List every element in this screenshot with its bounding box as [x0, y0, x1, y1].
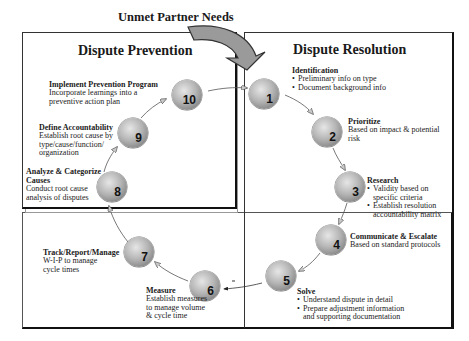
step-7-label: Track/Report/Manage W-I-P to manage cycl…	[43, 248, 123, 274]
step-8-label: Analyze & Categorize Causes Conduct root…	[26, 167, 102, 202]
step-2-label: Prioritize Based on impact & potential r…	[348, 117, 443, 143]
step-1-label: Identification Preliminary info on type …	[292, 66, 442, 92]
step-9-label: Define Accountability Establish root cau…	[39, 123, 117, 158]
step-10-label: Implement Prevention Program Incorporate…	[49, 80, 159, 106]
step-1-ball: 1	[249, 79, 279, 109]
step-6-label: Measure Establish measures to manage vol…	[146, 286, 208, 321]
step-5-label: Solve Understand dispute in detail Prepa…	[297, 287, 417, 322]
step-5-ball: 5	[266, 261, 296, 291]
step-10-ball: 10	[172, 80, 202, 110]
step-4-ball: 4	[316, 225, 346, 255]
step-3-label: Research Validity based on specific crit…	[367, 176, 447, 219]
step-2-ball: 2	[312, 117, 342, 147]
step-7-ball: 7	[124, 237, 154, 267]
step-3-ball: 3	[335, 172, 365, 202]
dispute-prevention-title: Dispute Prevention	[78, 43, 192, 59]
step-4-label: Communicate & Escalate Based on standard…	[350, 232, 450, 250]
unmet-partner-needs-title: Unmet Partner Needs	[118, 10, 234, 25]
curved-arrow-icon	[188, 26, 265, 70]
step-9-ball: 9	[118, 118, 148, 148]
dispute-resolution-title: Dispute Resolution	[293, 42, 406, 58]
